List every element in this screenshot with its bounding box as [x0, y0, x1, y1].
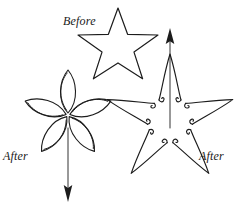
- label-after-left: After: [3, 150, 28, 162]
- figure-container: Before After After: [0, 0, 245, 213]
- figure-drawing: [0, 0, 245, 213]
- label-before: Before: [63, 15, 96, 27]
- up-arrow: [166, 28, 175, 128]
- down-arrow: [64, 128, 73, 202]
- label-after-right: After: [199, 150, 224, 162]
